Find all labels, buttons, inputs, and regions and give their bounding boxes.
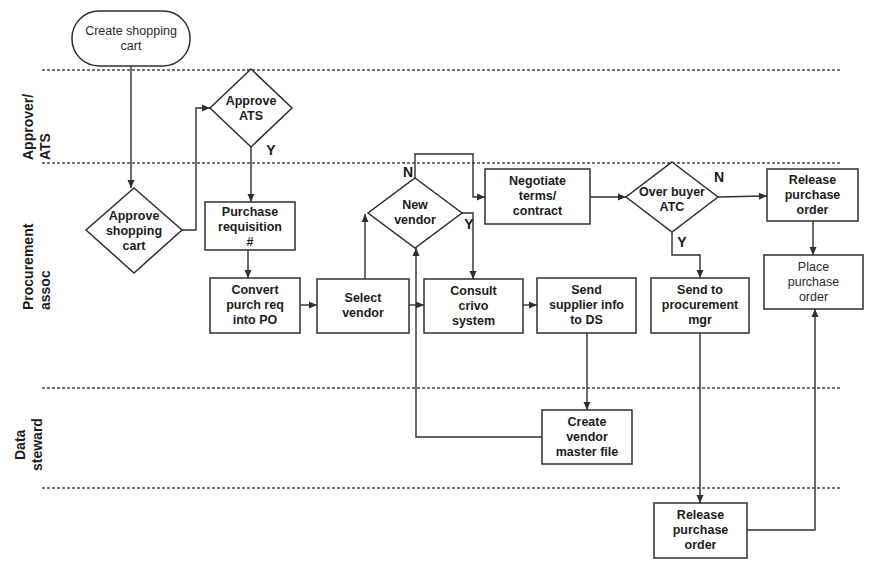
lane-label-approver-ats: Approver/ ATS <box>20 80 54 160</box>
node-label-place-po: Place purchase order <box>764 255 863 309</box>
edge-release-po-bottom-to-place-po <box>747 309 815 530</box>
node-label-create-shopping-cart: Create shopping cart <box>72 11 190 66</box>
node-label-release-po-top: Release purchase order <box>767 169 858 221</box>
edge-over-buyer-to-release-po <box>718 196 767 197</box>
node-label-select-vendor: Select vendor <box>317 279 409 333</box>
node-label-new-vendor: New vendor <box>368 178 462 248</box>
edge-label-over-buyer-no: N <box>711 169 727 185</box>
node-label-over-buyer-atc: Over buyer ATC <box>626 165 718 235</box>
edge-label-new-vendor-yes: Y <box>461 216 477 232</box>
node-label-purchase-requisition: Purchase requisition # <box>205 203 295 251</box>
node-label-approve-ats: Approve ATS <box>210 70 292 148</box>
node-label-consult-crivo: Consult crivo system <box>424 279 523 333</box>
edge-vendor-master-to-new-vendor <box>416 248 542 437</box>
node-label-send-supplier-info: Send supplier info to DS <box>537 278 636 333</box>
node-label-release-po-bottom: Release purchase order <box>654 503 747 558</box>
node-label-send-to-proc-mgr: Send to procurement mgr <box>651 278 749 333</box>
node-label-create-vendor-master: Create vendor master file <box>542 410 632 464</box>
lane-label-procurement-assoc: Procurement assoc <box>20 215 54 310</box>
edge-label-approve-ats-yes: Y <box>263 142 279 158</box>
lane-label-data-steward: Data steward <box>12 412 46 478</box>
edge-label-over-buyer-yes: Y <box>674 234 690 250</box>
swimlane-flowchart: Approver/ ATS Procurement assoc Data ste… <box>0 0 874 574</box>
node-label-negotiate-terms: Negotiate terms/ contract <box>485 169 590 224</box>
node-label-approve-shopping-cart: Approve shopping cart <box>86 190 182 273</box>
node-label-convert-purch-req: Convert purch req into PO <box>210 278 300 333</box>
edge-label-new-vendor-no: N <box>400 164 416 180</box>
